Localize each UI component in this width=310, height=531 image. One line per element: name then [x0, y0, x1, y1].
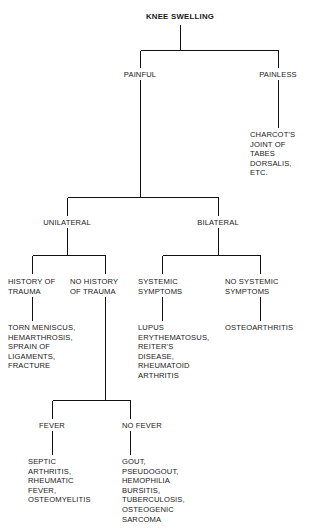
- node-no-fever-causes: GOUT, PSEUDOGOUT, HEMOPHILIA BURSITIS, T…: [122, 457, 185, 524]
- node-fever-causes: SEPTIC ARTHRITIS, RHEUMATIC FEVER, OSTEO…: [28, 457, 91, 505]
- node-painless: PAINLESS: [259, 70, 297, 80]
- node-unilateral: UNILATERAL: [43, 218, 90, 228]
- knee-swelling-flowchart: KNEE SWELLING PAINFUL PAINLESS CHARCOT'S…: [0, 0, 310, 531]
- node-trauma-causes: TORN MENISCUS, HEMARTHROSIS, SPRAIN OF L…: [8, 323, 75, 371]
- node-systemic-symptoms: SYSTEMIC SYMPTOMS: [138, 277, 182, 296]
- node-no-history-of-trauma: NO HISTORY OF TRAUMA: [70, 277, 118, 296]
- flowchart-connectors: [0, 0, 310, 531]
- node-fever: FEVER: [39, 421, 65, 431]
- node-no-fever: NO FEVER: [122, 421, 162, 431]
- node-painful: PAINFUL: [124, 70, 156, 80]
- node-bilateral: BILATERAL: [197, 218, 238, 228]
- node-charcot-joint: CHARCOT'S JOINT OF TABES DORSALIS, ETC.: [250, 130, 295, 178]
- node-knee-swelling: KNEE SWELLING: [146, 12, 214, 22]
- node-systemic-causes: LUPUS ERYTHEMATOSUS, REITER'S DISEASE, R…: [138, 323, 209, 381]
- node-no-systemic-symptoms: NO SYSTEMIC SYMPTOMS: [225, 277, 279, 296]
- node-history-of-trauma: HISTORY OF TRAUMA: [8, 277, 55, 296]
- node-osteoarthritis: OSTEOARTHRITIS: [225, 323, 293, 333]
